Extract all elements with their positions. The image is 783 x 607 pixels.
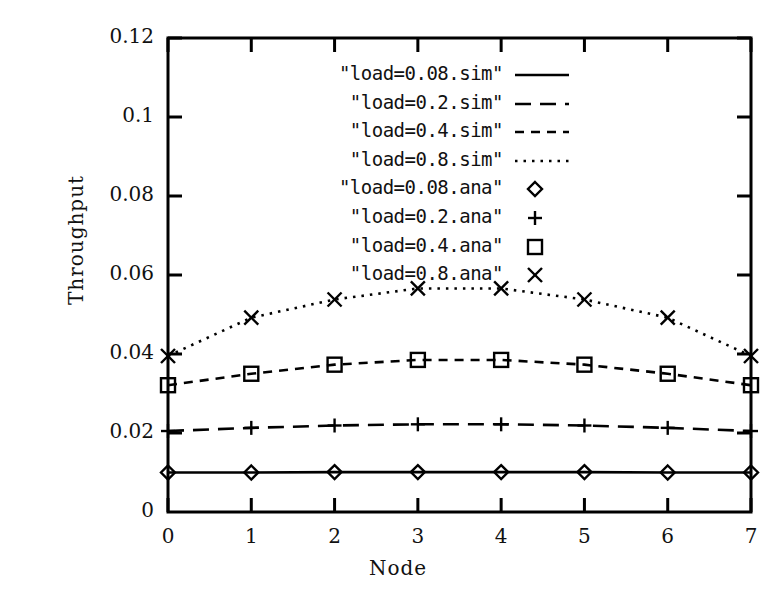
legend-item-label: "load=0.08.sim"	[339, 62, 503, 84]
legend-item-sample	[513, 234, 573, 260]
x-tick-label: 4	[481, 524, 521, 548]
legend-item: "load=0.2.ana"	[0, 205, 783, 231]
y-tick-label: 0.04	[44, 340, 154, 364]
legend-item: "load=0.2.sim"	[0, 91, 783, 117]
legend-item-label: "load=0.4.ana"	[350, 234, 503, 256]
legend-item-sample	[513, 176, 573, 202]
x-tick-label: 3	[398, 524, 438, 548]
x-tick-label: 7	[731, 524, 771, 548]
x-tick-label: 2	[315, 524, 355, 548]
legend-item: "load=0.08.ana"	[0, 176, 783, 202]
x-tick-label: 1	[231, 524, 271, 548]
marker-diamond-icon	[528, 182, 542, 196]
x-tick-label: 6	[648, 524, 688, 548]
chart-figure: Throughput Node 00.020.040.060.080.10.12…	[0, 0, 783, 607]
y-tick-label: 0.12	[44, 24, 154, 48]
legend-item-sample	[513, 148, 573, 174]
y-tick-label: 0.02	[44, 419, 154, 443]
legend-item: "load=0.8.sim"	[0, 148, 783, 174]
y-tick-label: 0	[44, 498, 154, 522]
legend-item-label: "load=0.2.ana"	[350, 205, 503, 227]
marker-square-icon	[528, 240, 542, 254]
legend-item-sample	[513, 91, 573, 117]
x-axis-label: Node	[369, 556, 427, 580]
legend-item-sample	[513, 62, 573, 88]
legend-item-sample	[513, 262, 573, 288]
legend-item-label: "load=0.4.sim"	[350, 119, 503, 141]
x-tick-label: 0	[148, 524, 188, 548]
legend-item-label: "load=0.2.sim"	[350, 91, 503, 113]
x-tick-label: 5	[564, 524, 604, 548]
legend-item-label: "load=0.8.ana"	[350, 262, 503, 284]
legend-item: "load=0.08.sim"	[0, 62, 783, 88]
legend-item-sample	[513, 205, 573, 231]
legend-item-label: "load=0.8.sim"	[350, 148, 503, 170]
legend-item: "load=0.4.sim"	[0, 119, 783, 145]
legend-item: "load=0.4.ana"	[0, 234, 783, 260]
legend-item-sample	[513, 119, 573, 145]
legend-item: "load=0.8.ana"	[0, 262, 783, 288]
legend-item-label: "load=0.08.ana"	[339, 176, 503, 198]
